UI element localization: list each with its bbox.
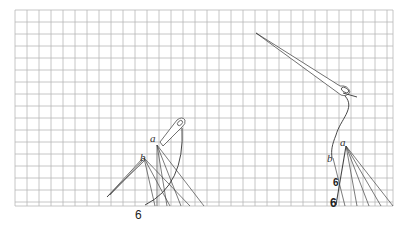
label-b: b <box>140 151 146 163</box>
label-b: b <box>327 152 333 164</box>
label-a: a <box>150 132 156 144</box>
figure-right: a b 6 6 <box>256 33 393 210</box>
step-number-mid: 6 <box>333 177 339 188</box>
needle-icon <box>107 158 145 197</box>
step-number: 6 <box>135 208 142 222</box>
needle-icon <box>256 33 357 97</box>
step-number: 6 <box>330 196 337 210</box>
stitch-diagram: a b 6 a b 6 6 <box>0 0 407 231</box>
label-a: a <box>340 136 346 148</box>
